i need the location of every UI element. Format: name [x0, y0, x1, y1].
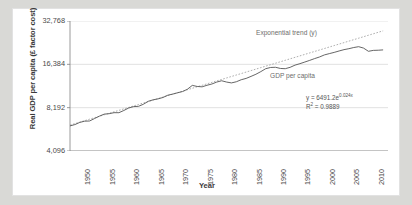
- x-tick-label: 1950: [83, 169, 92, 203]
- x-tick-label: 2005: [352, 169, 361, 203]
- regression-equation: y = 6491.2e0.024x: [306, 93, 353, 102]
- axis-lines: [70, 21, 388, 151]
- x-tick-label: 1960: [132, 169, 141, 203]
- x-tick-label: 2010: [377, 169, 386, 203]
- x-tick-label: 1990: [279, 169, 288, 203]
- x-tick-label: 1980: [230, 169, 239, 203]
- r-number: = 0.9889: [313, 103, 339, 110]
- x-tick-label: 1995: [303, 169, 312, 203]
- x-tick-label: 1975: [206, 169, 215, 203]
- plot-area: 4,0968,19216,38432,768 19501955196019651…: [58, 21, 388, 151]
- equation-base: y = 6491.2e: [306, 94, 339, 101]
- y-tick-label: 16,384: [23, 59, 65, 68]
- y-tick-label: 32,768: [23, 16, 65, 25]
- chart-canvas: [58, 21, 388, 151]
- x-tick-label: 1970: [181, 169, 190, 203]
- r-squared-value: R2 = 0.9889: [306, 102, 353, 111]
- y-tick-label: 4,096: [23, 146, 65, 155]
- x-tick-label: 2000: [328, 169, 337, 203]
- equation-exponent: 0.024x: [339, 93, 353, 98]
- y-tick-label: 8,192: [23, 103, 65, 112]
- regression-equation-box: y = 6491.2e0.024x R2 = 0.9889: [306, 93, 353, 111]
- gridlines: [67, 21, 388, 151]
- gdp-per-capita-line: [70, 47, 383, 126]
- x-tick-label: 1985: [255, 169, 264, 203]
- trend-annotation-label: Exponential trend (y): [256, 29, 317, 36]
- x-tick-label: 1955: [108, 169, 117, 203]
- chart-figure: Real GDP per capita (£ factor cost) Year…: [12, 8, 400, 196]
- x-tick-label: 1965: [157, 169, 166, 203]
- series-annotation-label: GDP per capita: [270, 72, 315, 79]
